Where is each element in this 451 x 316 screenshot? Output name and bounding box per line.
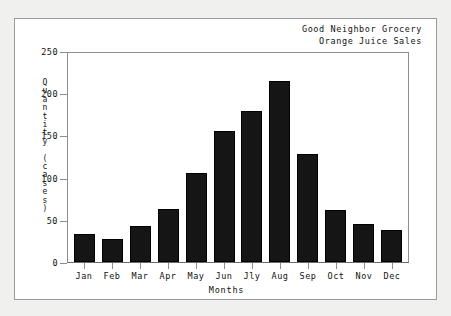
x-tick-label: Dec xyxy=(383,271,400,281)
x-tick-label: Jun xyxy=(215,271,232,281)
x-tick-mark xyxy=(140,263,141,269)
y-tick-mark xyxy=(60,263,67,264)
bar-series xyxy=(68,53,408,262)
plot-frame xyxy=(67,52,409,263)
bar xyxy=(158,209,179,262)
x-tick-mark xyxy=(392,263,393,269)
bar xyxy=(325,210,346,262)
x-tick-label: Feb xyxy=(103,271,120,281)
x-tick-mark xyxy=(252,263,253,269)
x-tick-mark xyxy=(84,263,85,269)
bar xyxy=(381,230,402,262)
x-tick-mark xyxy=(280,263,281,269)
bar xyxy=(74,234,95,262)
y-tick-mark xyxy=(60,221,67,222)
bar xyxy=(241,111,262,262)
bar xyxy=(269,81,290,262)
plot-area: Quantity (cases) 050100150200250 JanFebM… xyxy=(15,19,438,301)
y-tick-label: 0 xyxy=(15,258,58,268)
x-tick-mark xyxy=(308,263,309,269)
x-tick-mark xyxy=(336,263,337,269)
bar xyxy=(297,154,318,262)
x-axis-title: Months xyxy=(15,285,438,295)
bar xyxy=(130,226,151,262)
y-tick-mark xyxy=(60,94,67,95)
bar xyxy=(102,239,123,262)
x-tick-label: Jan xyxy=(75,271,92,281)
y-tick-label: 50 xyxy=(15,216,58,226)
x-tick-mark xyxy=(168,263,169,269)
x-tick-mark xyxy=(364,263,365,269)
x-tick-label: Apr xyxy=(159,271,176,281)
y-tick-mark xyxy=(60,136,67,137)
y-tick-mark xyxy=(60,179,67,180)
y-tick-label: 250 xyxy=(15,47,58,57)
x-tick-label: Oct xyxy=(327,271,344,281)
bar xyxy=(214,131,235,262)
y-tick-label: 150 xyxy=(15,131,58,141)
chart-card: Good Neighbor Grocery Orange Juice Sales… xyxy=(14,18,437,300)
y-tick-mark xyxy=(60,52,67,53)
y-axis-title-char: ) xyxy=(39,205,51,213)
bar xyxy=(353,224,374,262)
x-tick-mark xyxy=(224,263,225,269)
x-tick-mark xyxy=(112,263,113,269)
x-tick-label: Sep xyxy=(299,271,316,281)
x-tick-label: Nov xyxy=(355,271,372,281)
x-tick-mark xyxy=(196,263,197,269)
x-tick-label: Jly xyxy=(243,271,260,281)
bar xyxy=(186,173,207,262)
x-tick-label: Aug xyxy=(271,271,288,281)
x-tick-label: May xyxy=(187,271,204,281)
x-tick-label: Mar xyxy=(131,271,148,281)
y-tick-label: 100 xyxy=(15,174,58,184)
y-tick-label: 200 xyxy=(15,89,58,99)
